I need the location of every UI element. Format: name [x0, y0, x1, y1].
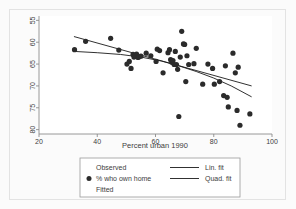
y-tick-label-65: 70 — [30, 82, 37, 90]
x-tick-label-40: 40 — [93, 138, 101, 145]
x-axis-title: Percent urban 1990 — [122, 141, 188, 150]
y-tick-label-70: 65 — [30, 60, 37, 68]
legend-quad-fit-label: Quad. fit — [205, 175, 232, 183]
data-point-21 — [167, 47, 172, 52]
scatter-plot: 807570656055 20406080100 Percent urban 1… — [0, 0, 296, 209]
legend-lin-fit-label: Lin. fit — [205, 164, 224, 171]
data-point-46 — [225, 95, 230, 100]
y-tick-label-55: 80 — [30, 126, 37, 134]
data-point-13 — [138, 54, 143, 59]
y-tick-label-60: 75 — [30, 104, 37, 112]
data-point-51 — [236, 65, 241, 70]
data-point-1 — [83, 39, 88, 44]
data-point-14 — [144, 51, 149, 56]
data-point-15 — [148, 53, 153, 58]
data-point-3 — [116, 47, 121, 52]
data-point-33 — [182, 42, 187, 47]
data-point-48 — [230, 51, 235, 56]
legend-observed-label: Observed — [96, 164, 126, 171]
data-point-34 — [183, 79, 188, 84]
data-point-18 — [157, 48, 162, 53]
data-point-38 — [194, 46, 199, 51]
y-tick-label-75: 60 — [30, 38, 37, 46]
data-point-43 — [217, 79, 222, 84]
x-tick-label-100: 100 — [266, 138, 278, 145]
data-point-37 — [191, 61, 196, 66]
data-point-31 — [179, 29, 184, 34]
data-point-5 — [127, 59, 132, 64]
legend-own-home-label: % who own home — [96, 175, 151, 182]
y-tick-label-80: 55 — [30, 16, 37, 24]
legend-fitted-label: Fitted — [96, 186, 114, 193]
data-point-53 — [247, 111, 252, 116]
data-point-52 — [237, 123, 242, 128]
legend: Observed % who own home Fitted Lin. fit … — [80, 158, 240, 197]
data-point-19 — [160, 70, 165, 75]
y-axis: 807570656055 — [30, 16, 40, 134]
x-tick-label-80: 80 — [210, 138, 218, 145]
data-point-28 — [175, 67, 180, 72]
data-point-35 — [184, 53, 189, 58]
data-point-50 — [234, 108, 239, 113]
data-point-16 — [153, 59, 158, 64]
legend-own-home-marker — [87, 176, 92, 181]
data-point-41 — [210, 66, 215, 71]
data-point-45 — [223, 63, 228, 68]
data-point-26 — [173, 49, 178, 54]
data-point-42 — [212, 82, 217, 87]
data-point-36 — [186, 62, 191, 67]
x-tick-label-20: 20 — [35, 138, 43, 145]
data-point-0 — [72, 47, 77, 52]
data-point-6 — [128, 66, 133, 71]
data-point-29 — [176, 114, 181, 119]
y-axis-tick-labels: 807570656055 — [30, 16, 37, 133]
data-point-2 — [108, 36, 113, 41]
data-point-40 — [205, 61, 210, 66]
data-point-49 — [233, 70, 238, 75]
figure-container: 807570656055 20406080100 Percent urban 1… — [0, 0, 296, 209]
data-point-39 — [200, 82, 205, 87]
data-point-30 — [178, 54, 183, 59]
data-point-27 — [174, 62, 179, 67]
data-point-47 — [226, 104, 231, 109]
plot-panel-background — [39, 16, 272, 134]
